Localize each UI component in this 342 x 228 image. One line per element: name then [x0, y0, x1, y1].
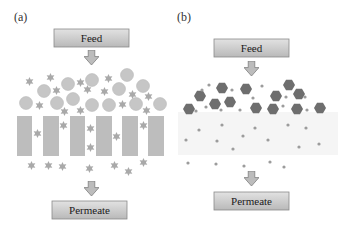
- dense-membrane-b: [178, 112, 338, 155]
- membrane-separation-figure: (a) Feed: [0, 0, 342, 228]
- permeate-box-a: Permeate: [52, 201, 127, 219]
- feed-box-a: Feed: [54, 29, 129, 47]
- panel-a-label: (a): [14, 10, 27, 24]
- permeate-dots-b: [186, 160, 285, 168]
- down-arrow-icon: [244, 61, 259, 76]
- permeate-box-b: Permeate: [214, 192, 289, 210]
- feed-label-a: Feed: [81, 32, 103, 44]
- down-arrow-icon: [84, 181, 99, 196]
- panel-b: (b) Feed: [177, 10, 338, 210]
- feed-label-b: Feed: [241, 42, 263, 54]
- permeate-label-b: Permeate: [231, 195, 272, 207]
- panel-a: (a) Feed: [14, 10, 167, 219]
- panel-b-label: (b): [177, 10, 191, 24]
- feed-box-b: Feed: [214, 39, 289, 57]
- permeate-label-a: Permeate: [69, 204, 110, 216]
- down-arrow-icon: [244, 171, 259, 186]
- permeate-stars-a: [28, 158, 148, 176]
- down-arrow-icon: [84, 50, 99, 65]
